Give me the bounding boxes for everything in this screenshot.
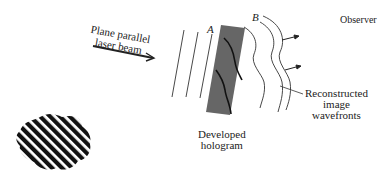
plane-wavefronts [172, 30, 212, 98]
reconstructed-line3: wavefronts [305, 110, 368, 121]
reconstructed-label: Reconstructed image wavefronts [305, 88, 368, 121]
hologram-line2: hologram [198, 140, 246, 151]
hologram-label: Developed hologram [198, 129, 246, 151]
reconstructed-wavefronts [244, 16, 291, 112]
marker-b: B [252, 12, 259, 23]
marker-a: A [207, 24, 214, 35]
object-blob [16, 114, 90, 170]
observer-label: Observer [340, 14, 377, 25]
leader-line [280, 86, 303, 94]
propagation-arrows [282, 35, 301, 70]
